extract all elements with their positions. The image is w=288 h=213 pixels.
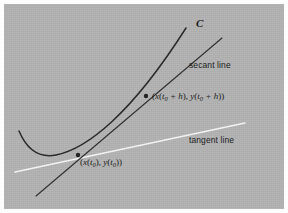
point-marker-upper bbox=[144, 94, 148, 98]
tangent-line bbox=[15, 123, 245, 172]
plus-h: + h bbox=[168, 91, 183, 101]
figure-container: C secant line tangent line (x(t0 + h), y… bbox=[0, 0, 288, 213]
diagram-artwork bbox=[0, 0, 288, 213]
point-upper-label: (x(t0 + h), y(t0 + h)) bbox=[152, 92, 224, 103]
curve-label: C bbox=[196, 18, 203, 29]
paren-close: ) bbox=[221, 91, 224, 101]
plus-h-2: + h bbox=[203, 91, 218, 101]
secant-line-label: secant line bbox=[189, 61, 231, 70]
paren-close: ) bbox=[119, 157, 122, 167]
point-lower-label: (x(t0), y(t0)) bbox=[80, 158, 122, 169]
tangent-line-label: tangent line bbox=[189, 136, 234, 145]
